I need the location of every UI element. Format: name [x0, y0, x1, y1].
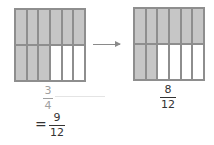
shaded-cell: [170, 9, 180, 43]
left-fraction-grid: [14, 8, 86, 82]
equals-sign: =: [35, 116, 47, 132]
equivalent-numerator: 9: [54, 112, 61, 124]
right-fraction-grid: [133, 7, 205, 81]
shaded-cell: [147, 45, 157, 79]
left-fraction: 3 4: [43, 85, 53, 112]
right-fraction: 8 12: [160, 84, 176, 111]
shaded-cell: [16, 46, 26, 80]
empty-cell: [158, 45, 168, 79]
equivalent-fraction: 9 12: [49, 112, 65, 139]
empty-cell: [170, 45, 180, 79]
shaded-cell: [39, 46, 49, 80]
shaded-cell: [135, 9, 145, 43]
left-denominator: 4: [45, 100, 52, 112]
faint-divider: [55, 96, 105, 97]
empty-cell: [51, 46, 61, 80]
shaded-cell: [182, 9, 192, 43]
shaded-cell: [51, 10, 61, 44]
right-denominator: 12: [161, 99, 175, 111]
left-numerator: 3: [45, 85, 52, 97]
shaded-cell: [158, 9, 168, 43]
shaded-cell: [28, 10, 38, 44]
empty-cell: [74, 46, 84, 80]
shaded-cell: [147, 9, 157, 43]
equivalent-denominator: 12: [50, 127, 64, 139]
empty-cell: [193, 45, 203, 79]
shaded-cell: [16, 10, 26, 44]
shaded-cell: [135, 45, 145, 79]
shaded-cell: [28, 46, 38, 80]
shaded-cell: [39, 10, 49, 44]
shaded-cell: [74, 10, 84, 44]
arrow-icon: [93, 44, 120, 45]
shaded-cell: [63, 10, 73, 44]
right-numerator: 8: [165, 84, 172, 96]
shaded-cell: [193, 9, 203, 43]
empty-cell: [63, 46, 73, 80]
empty-cell: [182, 45, 192, 79]
